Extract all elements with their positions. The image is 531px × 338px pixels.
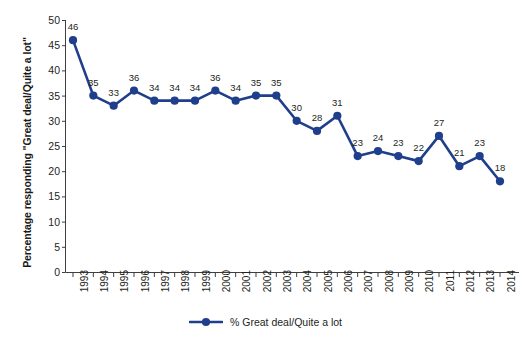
legend-label: % Great deal/Quite a lot — [230, 316, 342, 328]
x-tick-label: 2005 — [323, 270, 335, 314]
x-tick-label: 2004 — [302, 270, 314, 314]
data-point-label: 35 — [82, 78, 104, 88]
data-point-label: 35 — [265, 78, 287, 88]
x-tick-label: 2003 — [282, 270, 294, 314]
data-point-label: 21 — [448, 148, 470, 158]
x-tick-label: 2006 — [343, 270, 355, 314]
data-point-label: 23 — [347, 138, 369, 148]
x-tick-label: 2008 — [384, 270, 396, 314]
data-point-label: 33 — [103, 88, 125, 98]
x-tick-label: 1995 — [119, 270, 131, 314]
legend-marker-icon — [189, 316, 223, 328]
x-tick-label: 2001 — [241, 270, 253, 314]
x-tick-label: 2010 — [424, 270, 436, 314]
data-point-label: 28 — [306, 113, 328, 123]
data-point-label: 34 — [225, 83, 247, 93]
data-point-label: 35 — [245, 78, 267, 88]
data-point-label: 34 — [143, 83, 165, 93]
x-tick-label: 2011 — [445, 270, 457, 314]
x-tick-label: 2002 — [262, 270, 274, 314]
data-point-label: 34 — [184, 83, 206, 93]
x-tick-label: 1997 — [160, 270, 172, 314]
data-point-label: 24 — [367, 133, 389, 143]
data-point-label: 22 — [408, 143, 430, 153]
chart-legend: % Great deal/Quite a lot — [0, 311, 531, 333]
x-tick-label: 2013 — [485, 270, 497, 314]
x-tick-label: 1993 — [79, 270, 91, 314]
data-point-label: 23 — [387, 138, 409, 148]
data-point-label: 36 — [204, 73, 226, 83]
data-point-label: 18 — [489, 163, 511, 173]
x-tick-label: 2012 — [465, 270, 477, 314]
data-point-label: 30 — [286, 103, 308, 113]
x-tick-label: 2007 — [363, 270, 375, 314]
x-tick-label: 1994 — [99, 270, 111, 314]
line-chart: Percentage responding "Great deal/Quite … — [0, 0, 531, 338]
data-point-label: 34 — [164, 83, 186, 93]
x-tick-label: 2000 — [221, 270, 233, 314]
data-point-label: 36 — [123, 73, 145, 83]
x-tick-label: 1996 — [140, 270, 152, 314]
data-point-label: 31 — [326, 98, 348, 108]
data-point-label: 46 — [62, 22, 84, 32]
x-tick-label: 1999 — [201, 270, 213, 314]
x-tick-label: 2009 — [404, 270, 416, 314]
x-tick-label: 2014 — [506, 270, 518, 314]
data-point-label: 27 — [428, 118, 450, 128]
x-tick-label: 1998 — [180, 270, 192, 314]
data-point-label: 23 — [469, 138, 491, 148]
